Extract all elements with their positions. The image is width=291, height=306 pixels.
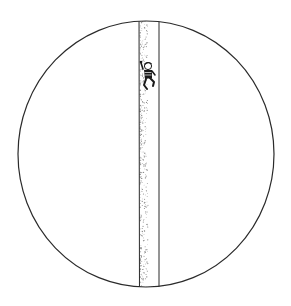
stipple-dot — [140, 98, 141, 99]
stipple-dot — [140, 149, 141, 150]
stipple-dot — [140, 53, 141, 54]
stipple-dot — [145, 131, 146, 132]
stipple-dot — [141, 201, 142, 202]
stipple-dot — [145, 126, 146, 127]
stipple-dot — [142, 236, 143, 237]
stipple-dot — [141, 107, 142, 108]
stipple-dot — [147, 206, 148, 207]
stipple-dot — [143, 19, 144, 20]
stipple-dot — [141, 75, 142, 76]
stipple-dot — [141, 139, 142, 140]
stipple-dot — [142, 73, 143, 74]
stipple-dot — [140, 109, 141, 110]
stipple-dot — [141, 178, 142, 179]
stipple-dot — [142, 94, 143, 95]
stipple-dot — [142, 42, 143, 43]
stipple-dot — [147, 103, 148, 104]
stipple-dot — [143, 77, 144, 78]
stipple-dot — [141, 261, 142, 262]
stipple-dot — [143, 49, 144, 50]
stipple-dot — [142, 152, 143, 153]
stipple-dot — [141, 275, 142, 276]
stipple-dot — [147, 226, 148, 227]
stipple-dot — [145, 278, 146, 279]
stipple-dot — [144, 153, 145, 154]
stipple-dot — [143, 164, 144, 165]
stipple-dot — [145, 165, 146, 166]
stipple-dot — [141, 172, 142, 173]
stipple-dot — [146, 190, 147, 191]
stipple-dot — [146, 249, 147, 250]
stipple-dot — [142, 123, 143, 124]
stipple-dot — [144, 156, 145, 157]
stipple-dot — [140, 94, 141, 95]
stipple-dot — [141, 245, 142, 246]
stipple-dot — [140, 164, 141, 165]
stipple-dot — [142, 279, 143, 280]
stipple-dot — [145, 206, 146, 207]
stipple-dot — [144, 230, 145, 231]
stipple-dot — [140, 70, 141, 71]
stipple-dot — [141, 182, 142, 183]
band-left-edge — [139, 0, 140, 306]
stipple-dot — [144, 199, 145, 200]
stipple-dot — [147, 110, 148, 111]
stipple-dot — [144, 208, 145, 209]
stipple-dot — [143, 130, 144, 131]
stipple-dot — [141, 69, 142, 70]
stipple-dot — [144, 142, 145, 143]
stipple-dot — [142, 189, 143, 190]
stipple-dot — [144, 55, 145, 56]
stipple-dot — [141, 256, 142, 257]
stipple-dot — [144, 18, 145, 19]
stipple-dot — [140, 220, 141, 221]
stipple-dot — [146, 118, 147, 119]
stipple-dot — [141, 231, 142, 232]
stipple-dot — [142, 199, 143, 200]
stipple-dot — [142, 205, 143, 206]
stipple-dot — [142, 233, 143, 234]
stipple-dot — [140, 83, 141, 84]
stipple-dot — [141, 180, 142, 181]
stipple-dot — [140, 120, 141, 121]
stipple-dot — [141, 216, 142, 217]
stipple-dot — [144, 185, 145, 186]
stipple-dot — [143, 120, 144, 121]
stipple-dot — [144, 169, 145, 170]
stipple-dot — [144, 240, 145, 241]
stipple-dot — [140, 105, 141, 106]
stipple-dot — [140, 263, 141, 264]
stipple-dot — [146, 224, 147, 225]
stipple-dot — [140, 32, 141, 33]
stipple-dot — [140, 248, 141, 249]
stipple-dot — [140, 74, 141, 75]
stipple-dot — [143, 105, 144, 106]
stipple-dot — [140, 182, 141, 183]
stipple-dot — [147, 42, 148, 43]
stipple-dot — [145, 249, 146, 250]
stipple-dot — [141, 130, 142, 131]
stipple-dot — [144, 89, 145, 90]
stipple-dot — [141, 176, 142, 177]
stipple-dot — [140, 18, 141, 19]
stipple-dot — [141, 215, 142, 216]
stipple-dot — [144, 256, 145, 257]
stipple-dot — [146, 274, 147, 275]
stipple-dot — [147, 251, 148, 252]
stipple-dot — [143, 166, 144, 167]
stipple-dot — [141, 144, 142, 145]
stipple-dot — [143, 220, 144, 221]
stipple-dot — [142, 226, 143, 227]
stipple-dot — [140, 50, 141, 51]
stipple-dot — [140, 114, 141, 115]
stipple-dot — [141, 99, 142, 100]
stipple-dot — [146, 102, 147, 103]
stipple-dot — [143, 240, 144, 241]
stipple-dot — [141, 113, 142, 114]
stipple-dot — [145, 142, 146, 143]
stipple-dot — [140, 142, 141, 143]
stipple-dot — [141, 55, 142, 56]
stipple-dot — [145, 69, 146, 70]
stipple-dot — [140, 25, 141, 26]
stipple-dot — [142, 40, 143, 41]
